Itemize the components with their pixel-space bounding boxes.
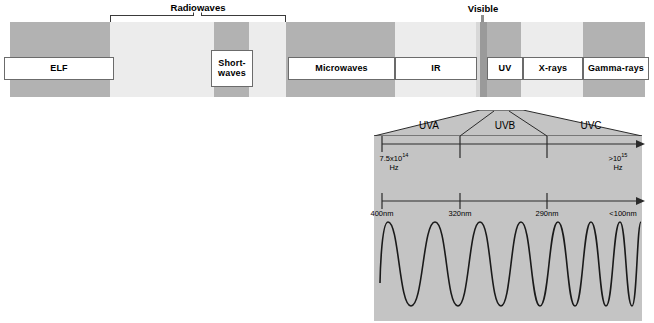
radiowaves-label: Radiowaves <box>128 2 268 13</box>
frequency-left-value: 7.5x10 <box>380 154 403 163</box>
frequency-left-exponent: 14 <box>402 152 408 158</box>
frequency-right-exponent: 15 <box>621 152 627 158</box>
uv-band-label-uvb: UVB <box>475 120 535 131</box>
wavelength-tick-label-290nm: 290nm <box>526 209 568 218</box>
band-visible <box>480 22 487 97</box>
wavelength-tick-label-400nm: 400nm <box>361 209 403 218</box>
segment-label-shortwaves-line2: waves <box>218 69 246 78</box>
frequency-axis-right-label: >1015 Hz <box>590 152 646 172</box>
uv-detail-panel: UVA UVB UVC 7.5x1014 Hz >1015 Hz 400nm 3… <box>368 110 648 321</box>
band-radio-high <box>249 22 286 97</box>
uv-band-label-uva: UVA <box>399 120 459 131</box>
segment-label-xrays: X-rays <box>523 57 583 80</box>
wavelength-tick-label-100nm: <100nm <box>600 209 646 218</box>
visible-label: Visible <box>448 3 518 14</box>
segment-label-ir: IR <box>395 57 477 80</box>
frequency-right-value: >10 <box>609 154 622 163</box>
band-radio-low <box>110 22 214 97</box>
wavelength-tick-label-320nm: 320nm <box>439 209 481 218</box>
frequency-axis-left-label: 7.5x1014 Hz <box>364 152 424 172</box>
segment-label-uv: UV <box>487 57 523 80</box>
segment-label-shortwaves: Short- waves <box>211 50 253 87</box>
spectrum-diagram: Radiowaves Visible ELF Short- waves Micr… <box>0 0 654 323</box>
uv-band-label-uvc: UVC <box>561 120 621 131</box>
frequency-left-unit: Hz <box>389 163 398 172</box>
segment-label-elf: ELF <box>4 57 114 80</box>
segment-label-gammarays: Gamma-rays <box>583 57 649 80</box>
segment-label-microwaves: Microwaves <box>288 57 395 80</box>
frequency-right-unit: Hz <box>613 163 622 172</box>
